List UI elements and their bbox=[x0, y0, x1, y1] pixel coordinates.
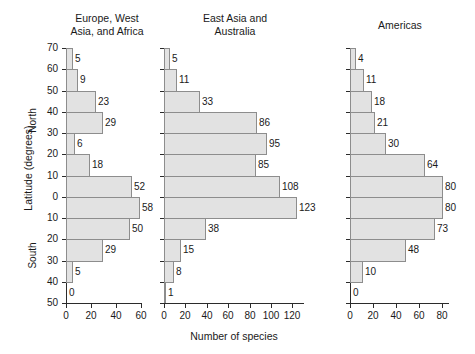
x-tick-0-60 bbox=[141, 304, 142, 308]
bar bbox=[164, 261, 174, 283]
bar-value-label: 50 bbox=[132, 223, 143, 234]
x-tick-label-2-80: 80 bbox=[422, 310, 462, 321]
x-axis-title: Number of species bbox=[164, 330, 304, 342]
bar-value-label: 4 bbox=[358, 53, 364, 64]
bar-value-label: 9 bbox=[80, 74, 86, 85]
bar-value-label: 73 bbox=[437, 223, 448, 234]
y-tick-label-7: 0 bbox=[26, 191, 58, 202]
bar bbox=[66, 239, 103, 262]
bar-value-label: 5 bbox=[172, 53, 178, 64]
x-tick-2-0 bbox=[350, 304, 351, 308]
bar-value-label: 21 bbox=[377, 117, 388, 128]
y-tick-label-0: 70 bbox=[26, 42, 58, 53]
bar bbox=[66, 261, 73, 283]
bar-value-label: 15 bbox=[183, 244, 194, 255]
bar bbox=[350, 69, 364, 92]
bar bbox=[164, 91, 200, 113]
bar bbox=[164, 176, 280, 198]
bar-value-label: 18 bbox=[374, 96, 385, 107]
bar bbox=[350, 197, 443, 219]
bar bbox=[350, 218, 435, 240]
bar bbox=[66, 154, 90, 177]
bar bbox=[66, 112, 103, 134]
x-tick-0-20 bbox=[91, 304, 92, 308]
bar-value-label: 95 bbox=[269, 138, 280, 149]
y-tick-label-6: 10 bbox=[26, 170, 58, 181]
y-tick-label-5: 20 bbox=[26, 148, 58, 159]
bar-value-label: 30 bbox=[388, 138, 399, 149]
x-tick-1-20 bbox=[185, 304, 186, 308]
bar-value-label: 48 bbox=[408, 244, 419, 255]
bar bbox=[350, 154, 425, 177]
x-tick-1-0 bbox=[164, 304, 165, 308]
panel-title-1: East Asia and Australia bbox=[170, 12, 300, 38]
bar-value-label: 38 bbox=[208, 223, 219, 234]
bar bbox=[164, 69, 177, 92]
bar bbox=[66, 91, 96, 113]
bar bbox=[66, 176, 132, 198]
bar bbox=[350, 91, 372, 113]
y-tick-label-10: 30 bbox=[26, 255, 58, 266]
x-tick-label-1-120: 120 bbox=[272, 310, 312, 321]
y-tick-label-8: 10 bbox=[26, 212, 58, 223]
bar-value-label: 64 bbox=[427, 159, 438, 170]
y-tick-label-3: 40 bbox=[26, 106, 58, 117]
panel-title-0: Europe, West Asia, and Africa bbox=[47, 12, 167, 38]
x-tick-0-0 bbox=[66, 304, 67, 308]
bar-value-label: 80 bbox=[445, 181, 456, 192]
y-tick-label-9: 20 bbox=[26, 233, 58, 244]
bar-value-label: 86 bbox=[259, 117, 270, 128]
bar bbox=[66, 48, 73, 70]
bar bbox=[164, 282, 166, 304]
bar bbox=[164, 154, 256, 177]
bar bbox=[350, 176, 443, 198]
bar bbox=[164, 48, 170, 70]
bar-value-label: 85 bbox=[258, 159, 269, 170]
bar bbox=[164, 218, 206, 240]
bar bbox=[164, 112, 257, 134]
y-tick-label-2: 50 bbox=[26, 85, 58, 96]
panel-title-2: Americas bbox=[340, 19, 460, 32]
bar-value-label: 33 bbox=[202, 96, 213, 107]
bar bbox=[350, 112, 375, 134]
bar-value-label: 123 bbox=[299, 202, 316, 213]
y-tick-label-11: 40 bbox=[26, 276, 58, 287]
x-tick-2-40 bbox=[396, 304, 397, 308]
bar-value-label: 0 bbox=[353, 287, 359, 298]
bar bbox=[350, 133, 386, 155]
bar-value-label: 5 bbox=[75, 53, 81, 64]
y-tick-label-12: 50 bbox=[26, 297, 58, 308]
y-tick-label-1: 60 bbox=[26, 63, 58, 74]
y-axis-north-label: North bbox=[27, 86, 38, 156]
bar bbox=[350, 239, 406, 262]
bar bbox=[66, 133, 75, 155]
x-axis-line-2 bbox=[350, 303, 449, 304]
bar bbox=[66, 69, 78, 92]
bar-value-label: 52 bbox=[134, 181, 145, 192]
x-tick-1-120 bbox=[292, 304, 293, 308]
bar-value-label: 5 bbox=[75, 266, 81, 277]
bar bbox=[66, 197, 140, 219]
x-tick-1-40 bbox=[207, 304, 208, 308]
bar-value-label: 108 bbox=[282, 181, 299, 192]
bar bbox=[350, 261, 363, 283]
bar-value-label: 0 bbox=[69, 287, 75, 298]
bar bbox=[66, 218, 130, 240]
bar-chart-figure: Latitude (degrees) North South Europe, W… bbox=[0, 0, 475, 354]
x-tick-2-60 bbox=[419, 304, 420, 308]
x-axis-line-0 bbox=[66, 303, 142, 304]
bar-value-label: 1 bbox=[168, 287, 174, 298]
bar-value-label: 11 bbox=[366, 74, 376, 85]
bar-value-label: 58 bbox=[142, 202, 153, 213]
bar-value-label: 10 bbox=[365, 266, 376, 277]
bar-value-label: 11 bbox=[179, 74, 189, 85]
x-tick-1-100 bbox=[271, 304, 272, 308]
x-tick-2-20 bbox=[373, 304, 374, 308]
bar-value-label: 8 bbox=[176, 266, 182, 277]
bar bbox=[164, 133, 267, 155]
x-tick-1-80 bbox=[250, 304, 251, 308]
bar-value-label: 29 bbox=[105, 244, 116, 255]
bar-value-label: 80 bbox=[445, 202, 456, 213]
bar-value-label: 29 bbox=[105, 117, 116, 128]
y-tick-label-4: 30 bbox=[26, 127, 58, 138]
